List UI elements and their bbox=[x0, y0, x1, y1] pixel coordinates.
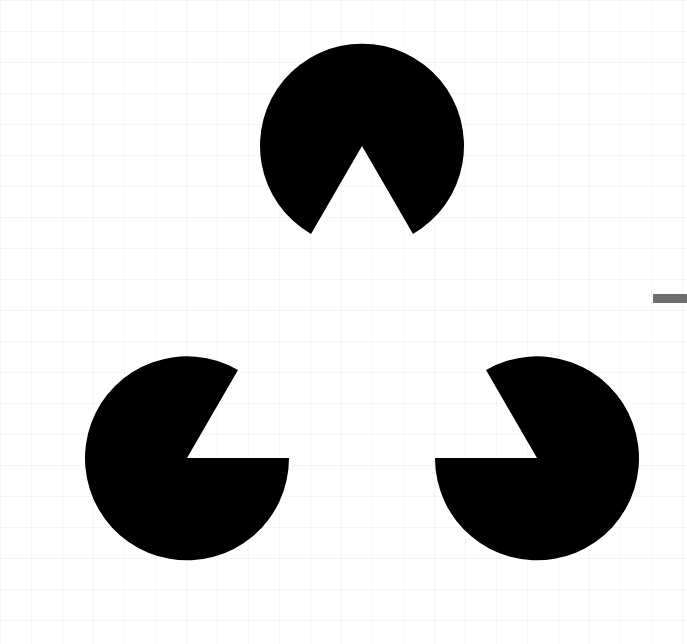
kanizsa-figure bbox=[0, 0, 687, 644]
pacman-bottom-left bbox=[85, 356, 289, 560]
pacman-top bbox=[260, 44, 464, 234]
grey-bar bbox=[653, 294, 687, 303]
pacman-bottom-right bbox=[435, 356, 639, 560]
